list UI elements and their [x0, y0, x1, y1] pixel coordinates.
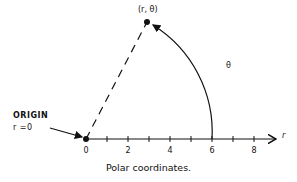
- origin-point: [83, 136, 89, 142]
- tick-label-2: 2: [125, 147, 130, 155]
- origin-label: ORIGIN: [13, 112, 48, 120]
- angle-label: θ: [226, 62, 231, 70]
- tick-label-8: 8: [251, 147, 256, 155]
- polar-point: [144, 19, 150, 25]
- radius-dashed-line: [86, 22, 147, 139]
- origin-pointer-arrow: [50, 128, 82, 137]
- tick-label-0: 0: [83, 147, 88, 155]
- tick-label-6: 6: [209, 147, 214, 155]
- angle-arc: [153, 25, 212, 139]
- point-label: (r, θ): [138, 6, 158, 14]
- tick-label-4: 4: [167, 147, 172, 155]
- axis-label: r: [282, 132, 285, 140]
- figure-caption: Polar coordinates.: [0, 163, 297, 173]
- origin-r-zero-label: r =0: [13, 124, 33, 132]
